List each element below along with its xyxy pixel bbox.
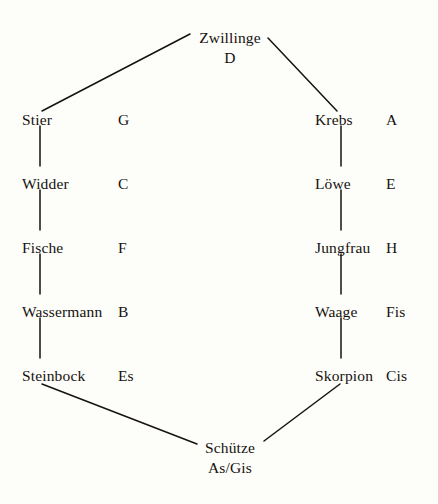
sign-label-wassermann: Wassermann: [22, 304, 102, 320]
tone-label-skorpion: Cis: [386, 368, 407, 384]
tone-label-fische: F: [118, 240, 127, 256]
edge-stier-zwillinge: [42, 34, 190, 111]
tone-label-loewe: E: [386, 176, 396, 192]
zodiac-tone-diagram: ZwillingeDStierGWidderCFischeFWassermann…: [0, 0, 438, 504]
edge-zwillinge-krebs: [268, 38, 337, 111]
tone-label-widder: C: [118, 176, 129, 192]
sign-label-widder: Widder: [22, 176, 69, 192]
sign-label-schuetze: Schütze: [205, 440, 255, 456]
sign-label-jungfrau: Jungfrau: [315, 240, 370, 256]
sign-label-loewe: Löwe: [315, 176, 351, 192]
tone-label-waage: Fis: [386, 304, 405, 320]
sign-label-krebs: Krebs: [315, 112, 353, 128]
sign-label-fische: Fische: [22, 240, 63, 256]
node-schuetze: SchützeAs/Gis: [205, 440, 255, 477]
sign-label-steinbock: Steinbock: [22, 368, 85, 384]
tone-label-jungfrau: H: [386, 240, 397, 256]
tone-label-schuetze: As/Gis: [205, 460, 255, 476]
tone-label-wassermann: B: [118, 304, 129, 320]
node-zwillinge: ZwillingeD: [199, 30, 261, 67]
sign-label-zwillinge: Zwillinge: [199, 30, 261, 46]
tone-label-stier: G: [118, 112, 129, 128]
tone-label-steinbock: Es: [118, 368, 134, 384]
sign-label-skorpion: Skorpion: [315, 368, 373, 384]
sign-label-waage: Waage: [315, 304, 358, 320]
edge-schuetze-skorpion: [264, 384, 340, 441]
tone-label-zwillinge: D: [199, 50, 261, 66]
diagram-edges: [0, 0, 438, 504]
tone-label-krebs: A: [386, 112, 397, 128]
edge-steinbock-schuetze: [42, 384, 197, 444]
sign-label-stier: Stier: [22, 112, 52, 128]
